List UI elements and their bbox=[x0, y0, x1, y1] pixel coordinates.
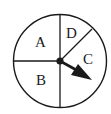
section-label-a: A bbox=[35, 34, 46, 50]
spinner-pivot bbox=[56, 57, 63, 64]
spinner-diagram: A B C D bbox=[0, 0, 111, 114]
section-label-d: D bbox=[66, 25, 77, 41]
section-label-b: B bbox=[36, 72, 46, 88]
section-label-c: C bbox=[83, 51, 93, 67]
